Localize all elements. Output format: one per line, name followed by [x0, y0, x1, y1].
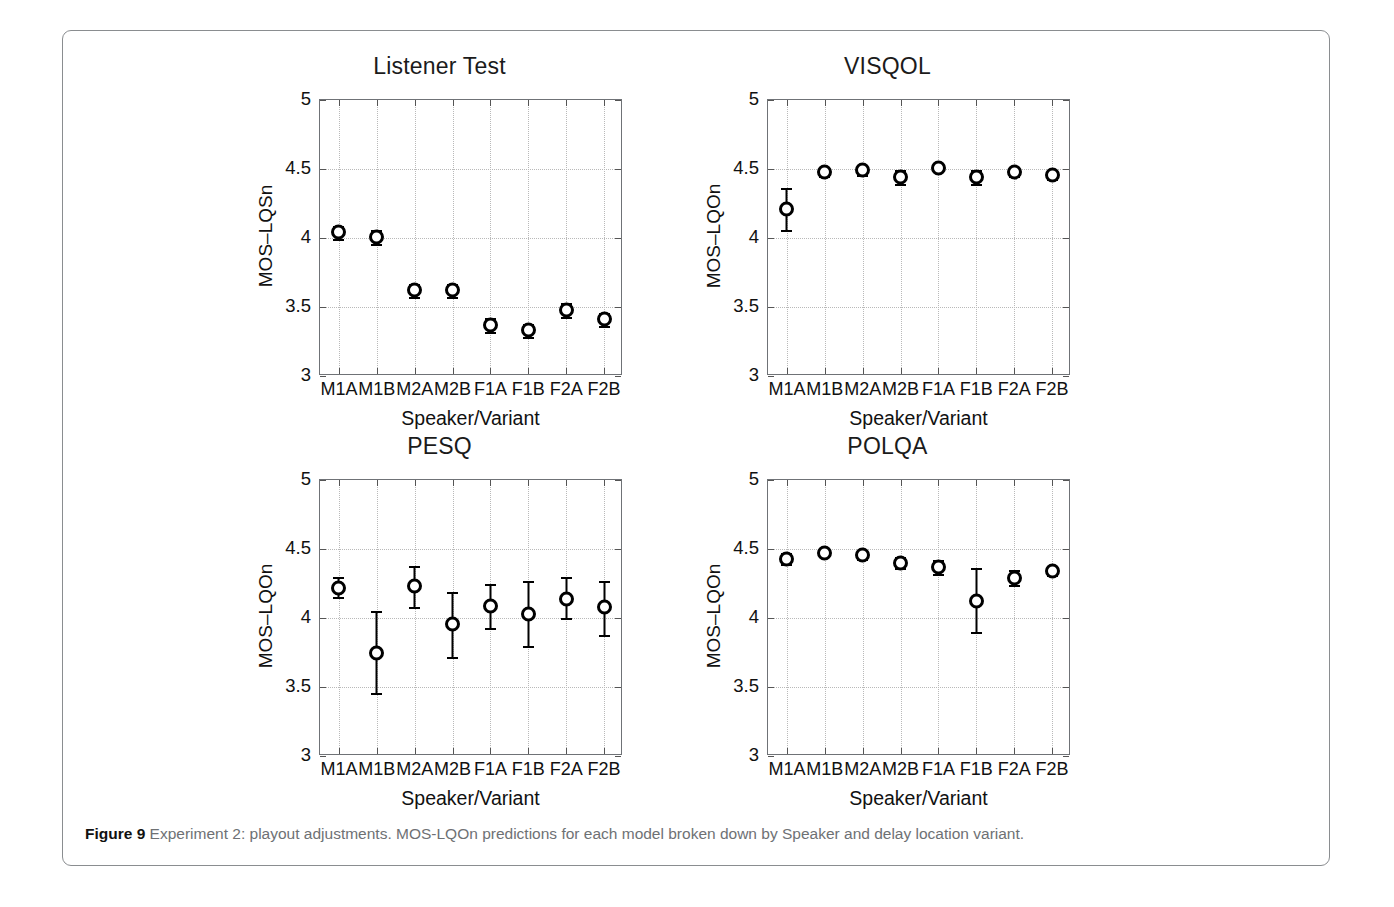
- data-point: [976, 480, 977, 756]
- y-tick-label: 3.5: [243, 675, 311, 697]
- y-tickmark: [1063, 687, 1069, 688]
- data-point: [376, 100, 377, 376]
- subplot-title: VISQOL: [691, 53, 1084, 80]
- y-tick-label: 4: [243, 606, 311, 628]
- y-tick-label: 5: [243, 88, 311, 110]
- y-tick-label: 3.5: [243, 295, 311, 317]
- data-marker: [521, 323, 536, 338]
- gridline-horizontal: [320, 238, 621, 239]
- data-marker: [1045, 167, 1060, 182]
- x-tick-label: M1B: [806, 754, 843, 780]
- y-axis-label: MOS–LQOn: [703, 161, 725, 311]
- gridline-horizontal: [320, 549, 621, 550]
- x-tick-label: M2A: [396, 754, 433, 780]
- x-tick-label: F1B: [960, 754, 993, 780]
- data-point: [338, 480, 339, 756]
- x-tick-label: F2A: [550, 754, 583, 780]
- data-marker: [559, 302, 574, 317]
- data-point: [1052, 100, 1053, 376]
- data-marker: [893, 170, 908, 185]
- data-point: [862, 480, 863, 756]
- data-marker: [407, 283, 422, 298]
- data-point: [490, 100, 491, 376]
- gridline-horizontal: [768, 307, 1069, 308]
- y-tickmark: [1063, 618, 1069, 619]
- y-axis-label: MOS–LQOn: [703, 541, 725, 691]
- gridline-horizontal: [768, 618, 1069, 619]
- error-bar-cap-upper: [447, 592, 458, 594]
- y-tickmark: [768, 238, 774, 239]
- y-tick-label: 5: [691, 88, 759, 110]
- y-tickmark: [320, 618, 326, 619]
- y-tickmark: [1063, 100, 1069, 101]
- x-tick-label: F2B: [1036, 754, 1069, 780]
- x-tick-label: F2A: [998, 374, 1031, 400]
- data-marker: [969, 594, 984, 609]
- subplot-pesq: PESQ33.544.55M1AM1BM2AM2BF1AF1BF2AF2BMOS…: [243, 433, 636, 819]
- error-bar-cap-lower: [371, 693, 382, 695]
- data-marker: [969, 170, 984, 185]
- data-point: [862, 100, 863, 376]
- gridline-horizontal: [320, 687, 621, 688]
- x-tick-label: M2B: [882, 754, 919, 780]
- data-marker: [779, 202, 794, 217]
- data-point: [414, 100, 415, 376]
- y-tick-label: 4.5: [243, 537, 311, 559]
- subplot-title: Listener Test: [243, 53, 636, 80]
- data-point: [824, 100, 825, 376]
- x-tick-label: F1B: [512, 754, 545, 780]
- data-marker: [1045, 564, 1060, 579]
- y-tickmark: [1063, 307, 1069, 308]
- y-tickmark: [320, 169, 326, 170]
- y-tickmark: [615, 307, 621, 308]
- y-axis-label: MOS–LQOn: [255, 541, 277, 691]
- y-tick-label: 3: [243, 744, 311, 766]
- data-point: [566, 100, 567, 376]
- data-point: [528, 100, 529, 376]
- error-bar-cap-lower: [971, 632, 982, 634]
- subplot-listener-test: Listener Test33.544.55M1AM1BM2AM2BF1AF1B…: [243, 53, 636, 439]
- data-point: [490, 480, 491, 756]
- error-bar-cap-lower: [523, 646, 534, 648]
- data-point: [452, 100, 453, 376]
- y-tickmark: [768, 618, 774, 619]
- x-tick-label: M1A: [768, 754, 805, 780]
- data-marker: [369, 645, 384, 660]
- gridline-horizontal: [320, 169, 621, 170]
- data-marker: [369, 229, 384, 244]
- x-tick-label: F2B: [1036, 374, 1069, 400]
- y-tickmark: [320, 549, 326, 550]
- y-tickmark: [1063, 549, 1069, 550]
- x-tick-label: M2B: [434, 374, 471, 400]
- error-bar-cap-upper: [781, 188, 792, 190]
- data-point: [1014, 480, 1015, 756]
- data-marker: [855, 163, 870, 178]
- error-bar-cap-lower: [781, 230, 792, 232]
- data-point: [938, 100, 939, 376]
- data-point: [604, 100, 605, 376]
- data-point: [824, 480, 825, 756]
- error-bar-cap-lower: [333, 597, 344, 599]
- data-marker: [559, 591, 574, 606]
- x-tick-label: F1A: [922, 374, 955, 400]
- y-tickmark: [1063, 480, 1069, 481]
- y-tickmark: [615, 687, 621, 688]
- y-tickmark: [615, 618, 621, 619]
- y-tick-label: 5: [243, 468, 311, 490]
- plot-area: M1AM1BM2AM2BF1AF1BF2AF2B: [319, 479, 622, 755]
- y-tickmark: [615, 238, 621, 239]
- figure-caption-label: Figure 9: [85, 825, 145, 842]
- x-tick-label: F2A: [998, 754, 1031, 780]
- data-point: [566, 480, 567, 756]
- data-point: [900, 480, 901, 756]
- error-bar-cap-lower: [447, 657, 458, 659]
- y-tickmark: [615, 100, 621, 101]
- y-tick-label: 3: [691, 364, 759, 386]
- y-tickmark: [1063, 169, 1069, 170]
- data-marker: [855, 547, 870, 562]
- data-point: [414, 480, 415, 756]
- y-tickmark: [768, 549, 774, 550]
- data-point: [1014, 100, 1015, 376]
- subplot-title: PESQ: [243, 433, 636, 460]
- data-marker: [779, 551, 794, 566]
